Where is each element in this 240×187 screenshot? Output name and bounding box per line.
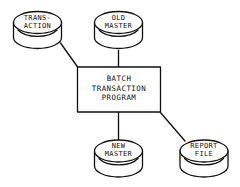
- connector-program-to-report: [160, 112, 185, 141]
- flowchart-canvas: TRANS- ACTION OLD MASTER BATCH TRANSACTI…: [0, 0, 240, 187]
- diagram-vector-layer: [0, 0, 240, 187]
- connector-transaction-to-program: [61, 43, 79, 68]
- process-box-shape[interactable]: [78, 67, 161, 112]
- cylinder-report-file-shape[interactable]: [180, 140, 228, 177]
- cylinder-old-master-shape[interactable]: [95, 12, 143, 49]
- cylinder-new-master-shape[interactable]: [95, 140, 143, 177]
- cylinder-transaction-shape[interactable]: [14, 12, 62, 49]
